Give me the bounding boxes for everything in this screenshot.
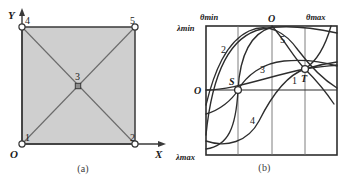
top-origin-label: O — [268, 13, 275, 24]
node-5-label: 5 — [130, 15, 135, 26]
point-S-label: S — [229, 76, 235, 87]
curve-2-label: 2 — [221, 44, 226, 55]
y-axis-label: Y — [8, 9, 16, 21]
node-3-label: 3 — [75, 71, 80, 82]
panel-a: 1 2 3 4 5 O X Y (a) — [0, 0, 174, 187]
curve-1-label: 1 — [292, 75, 297, 86]
x-axis-label: X — [154, 148, 163, 160]
curve-3-label: 3 — [260, 64, 265, 75]
point-S-marker — [235, 87, 242, 94]
curve-5-label: 5 — [280, 34, 285, 45]
node-1-label: 1 — [25, 132, 30, 143]
panel-b: S T 1 2 3 4 5 θmin O θmax λmin O λmax (b… — [174, 0, 347, 187]
curve-4-label: 4 — [250, 115, 255, 126]
theta-min-label: θmin — [200, 12, 218, 22]
lambda-min-label: λmin — [176, 23, 195, 33]
point-T-label: T — [301, 73, 308, 84]
panel-b-caption: (b) — [178, 162, 347, 173]
left-origin-label: O — [194, 85, 201, 96]
panel-b-graphic: S T 1 2 3 4 5 θmin O θmax λmin O λmax — [174, 0, 347, 187]
panel-a-caption: (a) — [0, 163, 170, 174]
theta-max-label: θmax — [306, 12, 326, 22]
origin-label-a: O — [10, 148, 18, 160]
point-T-marker — [302, 66, 309, 73]
node-4-label: 4 — [25, 15, 30, 26]
node-3-marker — [75, 83, 80, 88]
figure-container: 1 2 3 4 5 O X Y (a) — [0, 0, 347, 187]
panel-a-graphic: 1 2 3 4 5 O X Y — [0, 0, 174, 187]
lambda-max-label: λmax — [175, 152, 196, 162]
node-2-label: 2 — [130, 132, 135, 143]
